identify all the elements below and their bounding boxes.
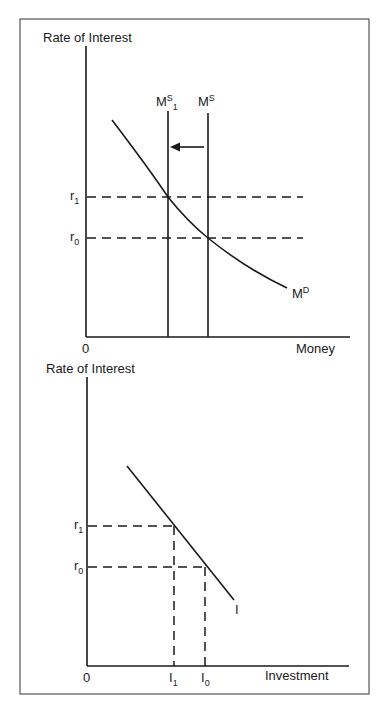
investment-curve-label: I [235,602,239,617]
bottom-r0-label: r0 [74,558,83,576]
investment-curve [127,466,234,600]
left-arrow-icon [170,143,180,152]
top-y-axis-label: Rate of Interest [43,30,132,45]
i1-label: I1 [169,670,178,688]
bottom-r1-label: r1 [74,517,83,535]
money-market-panel: Rate of Interest 0 Money r1 r0 MS1 MS MD [43,30,350,356]
figure-frame [20,19,369,694]
md-demand-curve [112,120,287,288]
bottom-x-axis-label: Investment [265,668,329,683]
ms-label: MS [198,93,215,109]
top-r1-label: r1 [70,188,79,206]
top-r0-label: r0 [70,229,79,247]
bottom-origin-label: 0 [83,670,90,685]
top-origin-label: 0 [82,341,89,356]
ms1-label: MS1 [156,93,178,112]
i0-label: I0 [201,670,210,688]
top-x-axis-label: Money [296,341,336,356]
bottom-y-axis-label: Rate of Interest [46,361,135,376]
md-label: MD [292,285,310,301]
investment-panel: Rate of Interest 0 Investment r1 r0 I I1… [46,361,349,688]
economics-figure: Rate of Interest 0 Money r1 r0 MS1 MS MD… [0,0,387,710]
